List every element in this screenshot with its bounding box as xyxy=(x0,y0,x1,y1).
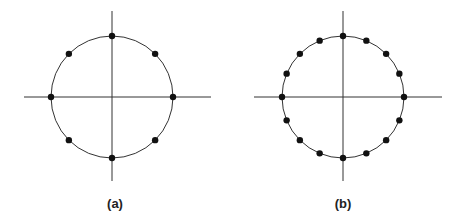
panel-a-caption: (a) xyxy=(107,196,123,211)
root-point xyxy=(340,33,346,39)
root-point xyxy=(383,137,389,143)
root-point xyxy=(316,150,322,156)
root-point xyxy=(297,137,303,143)
root-point xyxy=(283,117,289,123)
root-point xyxy=(170,94,176,100)
root-point xyxy=(279,94,285,100)
panel-a-roots-of-unity-8 xyxy=(24,11,211,181)
root-point xyxy=(316,37,322,43)
root-point xyxy=(152,51,158,57)
root-point xyxy=(66,137,72,143)
root-point xyxy=(363,37,369,43)
panel-b-caption: (b) xyxy=(335,196,352,211)
root-point xyxy=(396,117,402,123)
root-point xyxy=(48,94,54,100)
root-point xyxy=(66,51,72,57)
root-point xyxy=(152,137,158,143)
root-point xyxy=(109,155,115,161)
root-point xyxy=(297,51,303,57)
root-point xyxy=(396,70,402,76)
diagram-canvas xyxy=(0,0,461,224)
root-point xyxy=(383,51,389,57)
root-point xyxy=(340,155,346,161)
root-point xyxy=(363,150,369,156)
root-point xyxy=(109,33,115,39)
root-point xyxy=(401,94,407,100)
root-point xyxy=(283,70,289,76)
panel-b-roots-of-unity-16 xyxy=(254,11,442,181)
